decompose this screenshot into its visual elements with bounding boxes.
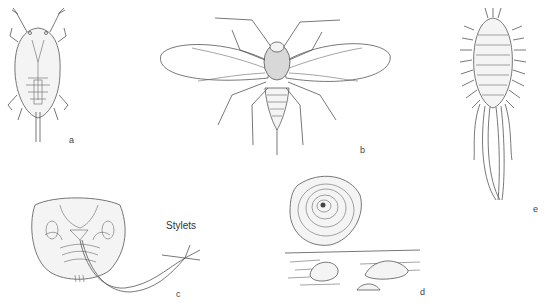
panel-label-a: a <box>69 135 74 145</box>
panel-label-b: b <box>360 145 365 155</box>
panel-c-illustration <box>32 198 200 292</box>
panel-label-c: c <box>176 289 181 299</box>
panel-a-illustration <box>8 8 68 142</box>
panel-d-illustration <box>285 176 420 290</box>
panel-label-e: e <box>533 204 538 214</box>
panel-label-d: d <box>420 287 425 297</box>
figure-canvas <box>0 0 555 303</box>
stylets-annotation: Stylets <box>166 220 196 231</box>
panel-e-illustration <box>460 8 526 200</box>
panel-b-illustration <box>160 18 390 155</box>
